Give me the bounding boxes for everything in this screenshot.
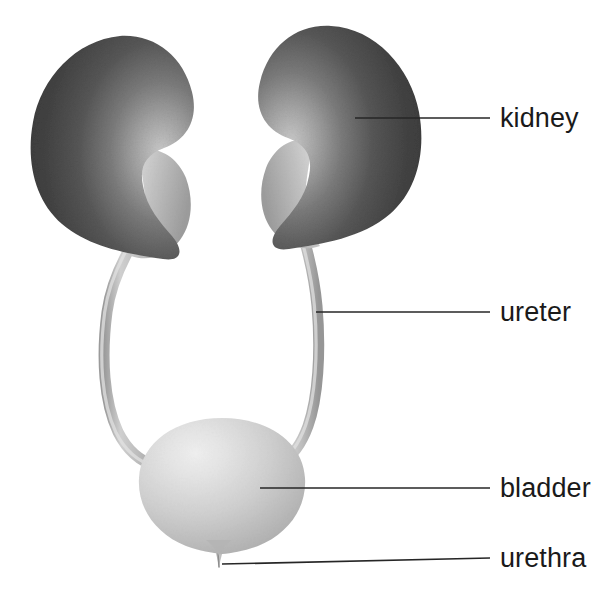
kidney-right (258, 26, 421, 250)
bladder (139, 418, 305, 556)
label-kidney: kidney (500, 105, 579, 132)
kidney-left (31, 36, 194, 260)
urinary-system-diagram: kidney ureter bladder urethra (0, 0, 610, 600)
leader-line-urethra (222, 558, 490, 564)
label-urethra: urethra (500, 545, 586, 572)
label-ureter: ureter (500, 299, 571, 326)
label-bladder: bladder (500, 475, 591, 502)
